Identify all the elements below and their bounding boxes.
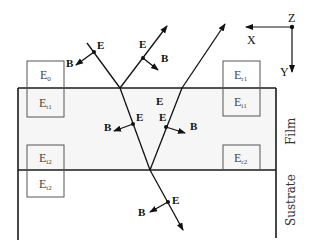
transmitted-ray-out bbox=[182, 24, 225, 88]
box-Er1: Er1 bbox=[223, 61, 260, 88]
box-E0: E0 bbox=[27, 61, 64, 88]
svg-text:B: B bbox=[190, 120, 198, 132]
svg-text:E: E bbox=[97, 39, 104, 51]
svg-text:B: B bbox=[104, 121, 112, 133]
svg-text:B: B bbox=[66, 57, 74, 69]
field-substrate: E B bbox=[138, 194, 179, 218]
y-axis-label: Y bbox=[280, 65, 289, 79]
svg-text:E: E bbox=[159, 111, 166, 123]
z-axis-label: Z bbox=[288, 11, 295, 25]
svg-text:Er1: Er1 bbox=[234, 68, 248, 83]
svg-text:E0: E0 bbox=[40, 68, 51, 83]
svg-text:E: E bbox=[156, 95, 163, 107]
svg-text:E: E bbox=[136, 111, 143, 123]
field-incident: E B bbox=[66, 39, 104, 69]
field-transmitted-top: E bbox=[156, 95, 163, 107]
film-label: Film bbox=[284, 117, 298, 145]
svg-text:E: E bbox=[172, 194, 179, 206]
box-Et2: Et2 bbox=[27, 170, 64, 197]
x-axis-label: X bbox=[247, 33, 256, 47]
svg-text:B: B bbox=[138, 206, 146, 218]
svg-text:B: B bbox=[161, 52, 169, 64]
svg-text:Et2: Et2 bbox=[39, 177, 52, 192]
thin-film-diagram: E0 Et1 Ei2 Et2 Er1 Ei1 Er2 E B E bbox=[0, 0, 312, 250]
substrate-label: Sustrate bbox=[284, 174, 298, 226]
svg-text:E: E bbox=[139, 38, 146, 50]
coordinate-axes: Z X Y bbox=[246, 11, 295, 79]
